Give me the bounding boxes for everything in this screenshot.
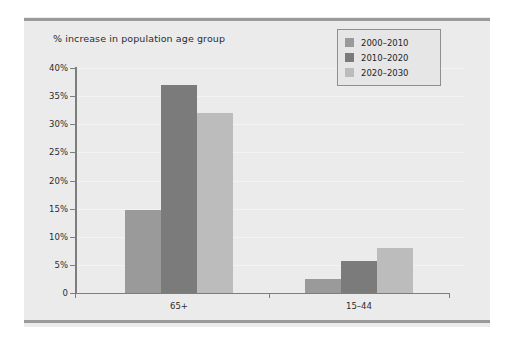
legend-item[interactable]: 2000–2010 (345, 35, 434, 50)
legend-swatch-icon (345, 68, 354, 77)
bar (377, 248, 413, 293)
figure: % increase in population age group 05%10… (0, 0, 513, 343)
x-axis-tick (449, 293, 450, 298)
legend-item-label: 2020–2030 (361, 68, 409, 78)
legend-item[interactable]: 2010–2020 (345, 50, 434, 65)
bar (305, 279, 341, 293)
bottom-rule (24, 320, 490, 323)
x-axis-category-label: 15–44 (319, 301, 399, 311)
legend-item[interactable]: 2020–2030 (345, 65, 434, 80)
bar (341, 261, 377, 293)
bar (125, 210, 161, 293)
y-axis-tick-label-wrap: 0 (0, 293, 68, 294)
legend-item-label: 2000–2010 (361, 38, 409, 48)
bar (197, 113, 233, 293)
x-axis-tick (75, 293, 76, 298)
x-axis-category-label: 65+ (139, 301, 219, 311)
legend-swatch-icon (345, 38, 354, 47)
bar (161, 85, 197, 293)
x-axis-tick (269, 293, 270, 298)
legend-swatch-icon (345, 53, 354, 62)
legend: 2000–20102010–20202020–2030 (337, 29, 441, 86)
legend-item-label: 2010–2020 (361, 53, 409, 63)
